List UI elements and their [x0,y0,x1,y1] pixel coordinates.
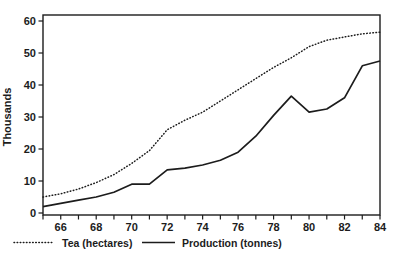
x-tick-label: 74 [197,221,210,233]
plot-border [43,15,380,215]
series-line-production [43,61,380,207]
x-tick-label: 78 [267,221,279,233]
y-tick-label: 30 [24,111,36,123]
y-tick-label: 60 [24,15,36,27]
x-tick-label: 66 [55,221,67,233]
y-tick-label: 40 [24,79,36,91]
x-tick-label: 70 [126,221,138,233]
y-axis-ticks: 0102030405060 [24,15,43,219]
y-tick-label: 0 [30,207,36,219]
x-tick-label: 72 [161,221,173,233]
series-line-tea [43,32,380,197]
tea-production-chart-figure: Thousands 0102030405060 6668707274767880… [0,0,396,261]
x-axis-ticks: 66687072747678808284 [43,215,387,233]
x-tick-label: 76 [232,221,244,233]
x-tick-label: 80 [303,221,315,233]
x-tick-label: 84 [374,221,387,233]
x-tick-label: 82 [338,221,350,233]
legend: Tea (hectares) Production (tonnes) [14,237,282,249]
legend-production-label: Production (tonnes) [182,237,282,249]
x-tick-label: 68 [90,221,102,233]
y-tick-label: 10 [24,175,36,187]
line-chart: Thousands 0102030405060 6668707274767880… [0,0,396,261]
y-tick-label: 50 [24,47,36,59]
legend-tea-label: Tea (hectares) [62,237,132,249]
y-axis-title: Thousands [1,88,13,147]
series-lines [43,32,380,206]
y-tick-label: 20 [24,143,36,155]
